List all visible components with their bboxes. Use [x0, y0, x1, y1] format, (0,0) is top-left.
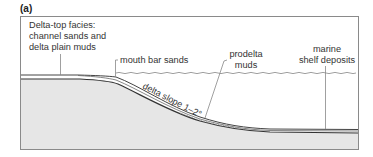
label-prodelta-line2: muds	[228, 60, 264, 71]
label-marine-shelf-line1: marine	[294, 44, 360, 55]
label-marine-shelf-deposits: marine shelf deposits	[294, 44, 360, 66]
label-prodelta-muds: prodelta muds	[228, 49, 264, 71]
delta-cross-section-diagram: delta slope 1–2° (a) Delta-top facies: c…	[0, 0, 373, 157]
label-marine-shelf-line2: shelf deposits	[294, 55, 360, 66]
label-delta-top-line1: Delta-top facies:	[29, 20, 106, 31]
label-delta-top-line3: delta plain muds	[29, 42, 106, 53]
label-delta-top-line2: channel sands and	[29, 31, 106, 42]
panel-label: (a)	[20, 3, 32, 14]
label-delta-top-facies: Delta-top facies: channel sands and delt…	[29, 20, 106, 53]
label-mouth-bar-sands: mouth bar sands	[120, 55, 188, 66]
label-prodelta-line1: prodelta	[228, 49, 264, 60]
